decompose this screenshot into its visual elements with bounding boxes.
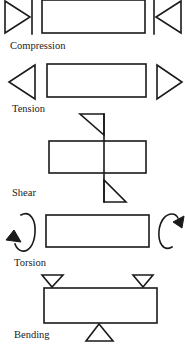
bending-support-icon [86,324,113,341]
shear-label: Shear [12,188,36,199]
bending-label: Bending [14,330,50,341]
shear-bottom-arrow-icon [104,180,126,202]
shear-top-arrow-icon [80,114,104,135]
bending-beam [44,288,157,323]
torsion-panel [6,214,184,251]
tension-beam [47,64,146,97]
compression-label: Compression [10,41,65,52]
tension-panel [9,64,182,99]
compression-right-arrow-icon [156,1,181,33]
tension-label: Tension [12,104,45,115]
stress-types-diagram [0,0,186,355]
torsion-left-arrowhead-icon [6,230,21,242]
compression-beam [42,0,145,33]
tension-left-arrow-icon [9,65,35,99]
torsion-right-curve [159,214,178,248]
tension-right-arrow-icon [157,65,182,99]
torsion-label: Torsion [14,258,46,269]
bending-right-load-icon [133,275,153,287]
bending-panel [42,275,157,341]
shear-beam [49,141,146,173]
compression-panel [5,0,181,34]
torsion-beam [46,215,149,247]
shear-panel [49,114,146,202]
torsion-left-curve [15,214,35,251]
bending-left-load-icon [42,275,63,287]
compression-left-arrow-icon [5,1,30,33]
